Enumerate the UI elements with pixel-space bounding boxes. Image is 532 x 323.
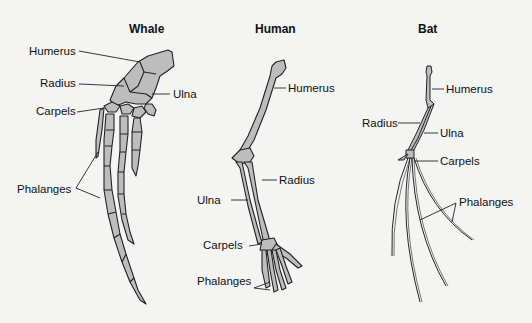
bat-label-radius: Radius (362, 118, 398, 130)
whale-label-humerus: Humerus (29, 46, 76, 58)
human-label-radius: Radius (279, 175, 315, 187)
bat-label-carpels: Carpels (440, 156, 480, 168)
human-label-carpels: Carpels (203, 240, 243, 252)
whale-label-phalanges: Phalanges (17, 184, 71, 196)
whale-label-carpels: Carpels (36, 106, 76, 118)
bat-label-ulna: Ulna (440, 128, 464, 140)
whale-flipper (96, 50, 174, 304)
panel-title-bat: Bat (418, 23, 437, 35)
human-label-humerus: Humerus (288, 83, 335, 95)
whale-label-ulna: Ulna (173, 89, 197, 101)
homologous-limbs-diagram: Whale Human Bat Humerus Radius Ulna Carp… (0, 0, 532, 323)
human-label-phalanges: Phalanges (197, 276, 251, 288)
bat-phalanges (392, 158, 474, 302)
bat-label-humerus: Humerus (446, 84, 493, 96)
panel-title-human: Human (255, 23, 296, 35)
panel-title-whale: Whale (129, 23, 164, 35)
bat-label-phalanges: Phalanges (459, 197, 513, 209)
human-label-ulna: Ulna (197, 195, 221, 207)
whale-label-radius: Radius (40, 78, 76, 90)
bat-wing (398, 66, 434, 160)
